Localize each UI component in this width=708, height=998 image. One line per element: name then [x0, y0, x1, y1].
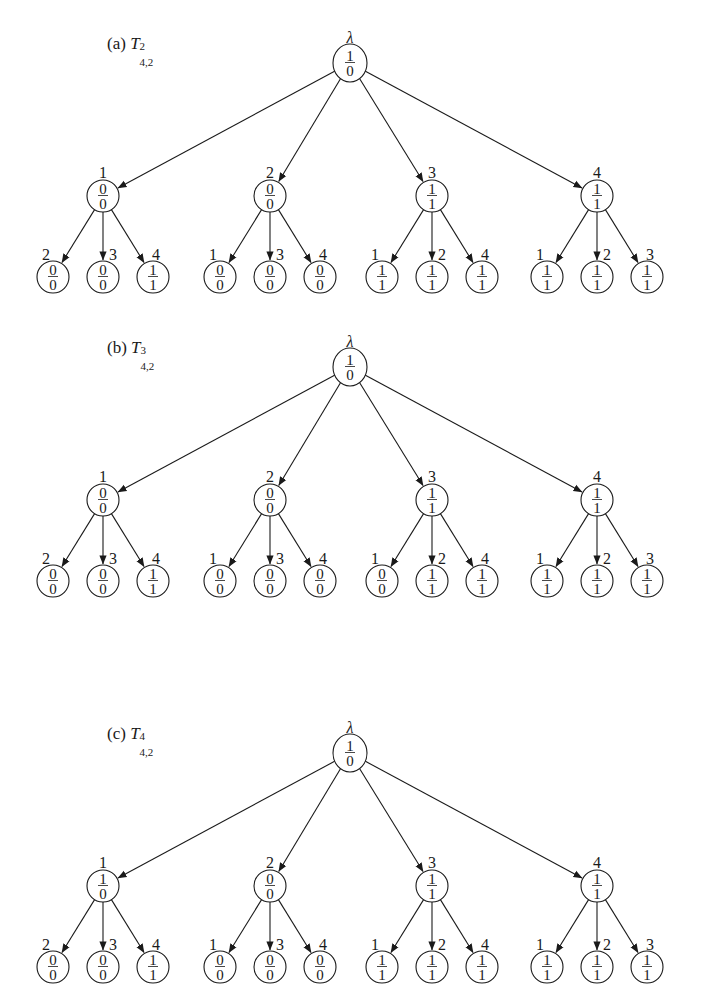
node-top-value: 1 — [428, 262, 436, 278]
node-bottom-value: 1 — [543, 967, 551, 983]
node-label: 3 — [109, 246, 117, 263]
node-bottom-value: 0 — [99, 500, 107, 516]
node-top-value: 0 — [49, 262, 57, 278]
node-bottom-value: 1 — [593, 196, 601, 212]
caption-subscript: 4,2 — [140, 746, 154, 758]
node-bottom-value: 0 — [266, 196, 274, 212]
node-top-value: 1 — [593, 952, 601, 968]
leaf-node: 11 — [466, 951, 498, 983]
leaf-node: 00 — [87, 261, 119, 293]
node-label: 3 — [276, 246, 284, 263]
node-top-value: 0 — [49, 952, 57, 968]
tree-edge — [391, 210, 424, 263]
tree-edge — [279, 382, 341, 486]
leaf-node: 00 — [304, 565, 336, 597]
node-top-value: 0 — [266, 485, 274, 501]
caption-symbol: T — [130, 724, 139, 743]
leaf-node: 00 — [87, 951, 119, 983]
node-top-value: 1 — [346, 352, 354, 368]
node-top-value: 1 — [428, 485, 436, 501]
leaf-node: 00 — [37, 951, 69, 983]
leaf-node: 00 — [204, 565, 236, 597]
node-top-value: 1 — [593, 262, 601, 278]
root-node: 10 — [333, 734, 367, 772]
leaf-node: 00 — [254, 951, 286, 983]
node-top-value: 0 — [316, 566, 324, 582]
node-label: 1 — [536, 246, 544, 263]
node-label: 1 — [99, 854, 107, 871]
tree-edge — [391, 900, 424, 953]
node-bottom-value: 1 — [593, 967, 601, 983]
leaf-node: 11 — [581, 951, 613, 983]
node-top-value: 1 — [149, 262, 157, 278]
node-label: 4 — [152, 550, 160, 567]
caption-superscript: 4 — [140, 730, 146, 742]
node-label: 2 — [42, 936, 50, 953]
node-bottom-value: 1 — [593, 886, 601, 902]
child-node: 10 — [87, 870, 119, 902]
caption-subscript: 4,2 — [141, 360, 155, 372]
node-label: 3 — [428, 468, 436, 485]
node-bottom-value: 0 — [99, 581, 107, 597]
leaf-node: 00 — [254, 565, 286, 597]
node-bottom-value: 1 — [593, 581, 601, 597]
node-label: 3 — [109, 936, 117, 953]
node-label: 3 — [428, 164, 436, 181]
node-label: 3 — [646, 550, 654, 567]
node-bottom-value: 1 — [593, 500, 601, 516]
node-label: λ — [346, 333, 354, 350]
tree-edge — [279, 768, 341, 872]
node-bottom-value: 1 — [428, 886, 436, 902]
tree-edge — [62, 900, 95, 953]
node-top-value: 1 — [428, 871, 436, 887]
leaf-node: 11 — [137, 261, 169, 293]
node-bottom-value: 1 — [643, 967, 651, 983]
node-label: λ — [346, 719, 354, 736]
node-top-value: 1 — [478, 952, 486, 968]
node-label: 3 — [276, 936, 284, 953]
node-label: 4 — [319, 246, 327, 263]
leaf-node: 11 — [366, 951, 398, 983]
node-top-value: 1 — [593, 871, 601, 887]
leaf-node: 11 — [631, 261, 663, 293]
node-label: 3 — [646, 246, 654, 263]
node-bottom-value: 1 — [149, 967, 157, 983]
node-bottom-value: 1 — [378, 277, 386, 293]
node-top-value: 0 — [316, 952, 324, 968]
node-label: 2 — [603, 550, 611, 567]
tree-edge — [556, 900, 589, 953]
node-top-value: 0 — [266, 262, 274, 278]
node-top-value: 1 — [346, 738, 354, 754]
node-top-value: 0 — [216, 952, 224, 968]
node-top-value: 1 — [149, 952, 157, 968]
caption-superscript: 3 — [141, 344, 147, 356]
node-label: 1 — [371, 936, 379, 953]
node-bottom-value: 0 — [49, 581, 57, 597]
leaf-node: 00 — [304, 951, 336, 983]
tree-edge — [62, 514, 95, 567]
node-bottom-value: 0 — [316, 277, 324, 293]
node-top-value: 1 — [543, 566, 551, 582]
node-top-value: 0 — [266, 181, 274, 197]
node-top-value: 1 — [543, 262, 551, 278]
node-bottom-value: 0 — [99, 196, 107, 212]
child-node: 00 — [254, 484, 286, 516]
node-top-value: 0 — [378, 566, 386, 582]
node-label: 1 — [99, 468, 107, 485]
node-bottom-value: 0 — [266, 581, 274, 597]
leaf-node: 11 — [137, 565, 169, 597]
node-top-value: 1 — [378, 262, 386, 278]
node-bottom-value: 1 — [149, 581, 157, 597]
node-label: 3 — [646, 936, 654, 953]
node-top-value: 1 — [149, 566, 157, 582]
leaf-node: 00 — [87, 565, 119, 597]
tree-edge — [365, 761, 582, 878]
node-label: 4 — [481, 936, 489, 953]
node-top-value: 1 — [543, 952, 551, 968]
node-top-value: 1 — [99, 871, 107, 887]
node-bottom-value: 1 — [428, 967, 436, 983]
node-top-value: 0 — [216, 262, 224, 278]
node-label: 2 — [266, 468, 274, 485]
node-label: 1 — [536, 936, 544, 953]
leaf-node: 11 — [366, 261, 398, 293]
